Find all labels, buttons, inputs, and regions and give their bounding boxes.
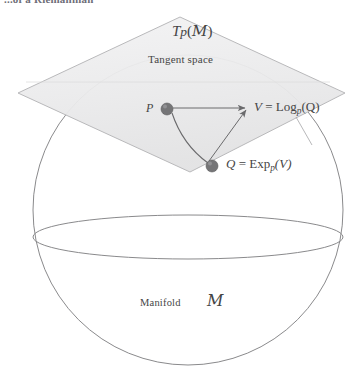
exp-map-equation: Q = Expp(V) bbox=[226, 157, 291, 173]
point-p-label: P bbox=[146, 102, 153, 114]
exp-eq-operator: Exp bbox=[249, 156, 270, 171]
log-eq-argument: (Q) bbox=[301, 99, 319, 114]
log-eq-operator: Log bbox=[276, 99, 297, 114]
exp-eq-argument: (V) bbox=[275, 156, 292, 171]
manifold-symbol: M bbox=[207, 293, 223, 309]
point-q-highlight bbox=[208, 162, 212, 166]
exp-eq-lhs: Q bbox=[226, 156, 235, 171]
log-eq-equals: = bbox=[262, 99, 276, 114]
tangent-space-caption: Tangent space bbox=[148, 54, 213, 65]
tangent-plane-quad bbox=[18, 17, 345, 172]
exp-eq-equals: = bbox=[235, 156, 249, 171]
tp-symbol-close: ) bbox=[207, 23, 212, 39]
manifold-caption: Manifold bbox=[140, 298, 181, 309]
tangent-space-symbol: Tp(M) bbox=[172, 24, 212, 39]
leader-line-v-label bbox=[296, 117, 312, 145]
point-p-highlight bbox=[163, 105, 167, 109]
point-q-dot bbox=[206, 160, 218, 172]
point-p-dot bbox=[161, 103, 173, 115]
riemannian-manifold-diagram: ...of a Riemannian bbox=[0, 0, 360, 381]
log-eq-lhs: V bbox=[254, 99, 262, 114]
tp-symbol-manifold: M bbox=[192, 22, 207, 40]
log-map-equation: V = Logp(Q) bbox=[254, 100, 319, 116]
